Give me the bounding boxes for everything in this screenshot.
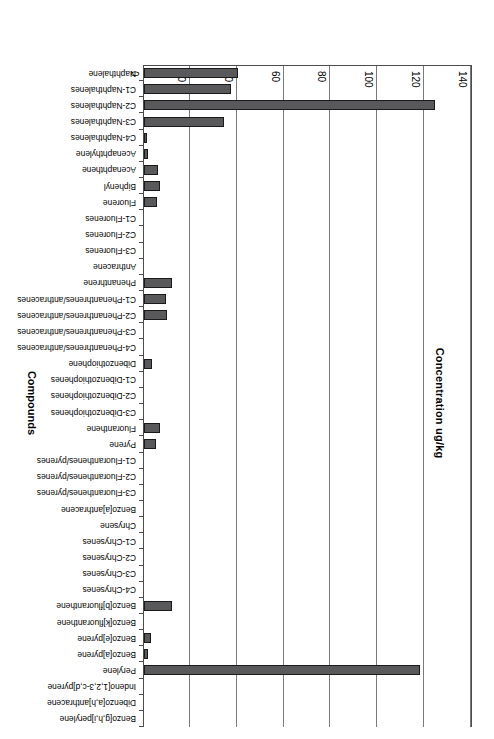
category-label: C1-Naphthalenes — [71, 85, 136, 93]
category-label: C3-Phenanthrenes/anthracenes — [17, 328, 136, 336]
category-tick — [139, 435, 144, 436]
category-tick — [139, 338, 144, 339]
category-label: Benzo[b]fluoranthene — [56, 602, 136, 610]
bar — [144, 68, 238, 78]
category-tick — [139, 129, 144, 130]
category-tick — [139, 161, 144, 162]
category-tick — [139, 726, 144, 727]
category-tick — [139, 516, 144, 517]
category-tick — [139, 694, 144, 695]
category-label: Biphenyl — [104, 182, 136, 190]
category-tick — [139, 500, 144, 501]
category-label: C1-Fluoranthenes/pyrenes — [37, 457, 136, 465]
category-tick — [139, 80, 144, 81]
category-tick — [139, 96, 144, 97]
category-label: Dibenzothiophene — [68, 360, 136, 368]
category-label: Fluorene — [103, 198, 136, 206]
category-tick — [139, 468, 144, 469]
bar — [144, 310, 167, 320]
value-tick-label: 140 — [457, 71, 468, 88]
category-tick — [139, 209, 144, 210]
bar — [144, 359, 152, 369]
category-tick — [139, 371, 144, 372]
gridline — [189, 66, 190, 727]
category-label: C1-Fluorenes — [85, 214, 136, 222]
category-tick — [139, 242, 144, 243]
category-label: C2-Fluorenes — [85, 231, 136, 239]
category-tick — [139, 419, 144, 420]
category-label: Naphthalene — [89, 69, 137, 77]
bar — [144, 601, 172, 611]
category-tick — [139, 548, 144, 549]
category-tick — [139, 387, 144, 388]
gridline — [236, 66, 237, 727]
category-label: Perylene — [103, 667, 136, 675]
category-label: Benzo[a]anthracene — [61, 505, 136, 513]
category-tick — [139, 565, 144, 566]
category-label: Benzo[g,h,i]perylene — [60, 715, 136, 723]
category-label: Indeno[1,2,3-c,d]pyrene — [48, 683, 136, 691]
category-tick — [139, 403, 144, 404]
category-label: C1-Dibenzothiophenes — [51, 376, 136, 384]
value-tick-label: 80 — [316, 71, 327, 82]
bar — [144, 100, 435, 110]
bar — [144, 84, 231, 94]
category-tick — [139, 290, 144, 291]
bar — [144, 165, 158, 175]
category-label: C3-Naphthalenes — [71, 118, 136, 126]
category-tick — [139, 355, 144, 356]
bar — [144, 149, 148, 159]
category-tick — [139, 484, 144, 485]
category-tick — [139, 193, 144, 194]
category-label: C2-Chrysenes — [82, 554, 136, 562]
gridline — [283, 66, 284, 727]
category-label: Phenanthrene — [83, 279, 136, 287]
category-label: C3-Fluorenes — [85, 247, 136, 255]
category-label: C4-Chrysenes — [82, 586, 136, 594]
category-tick — [139, 274, 144, 275]
gridline — [376, 66, 377, 727]
category-axis-title: Compounds — [26, 343, 38, 463]
bar — [144, 278, 172, 288]
category-tick — [139, 177, 144, 178]
value-tick-label: 100 — [363, 71, 374, 88]
category-label: Acenaphthene — [82, 166, 136, 174]
bar — [144, 181, 160, 191]
category-tick — [139, 661, 144, 662]
category-tick — [139, 306, 144, 307]
category-label: Dibenzo[a,h]anthracene — [47, 699, 136, 707]
bar — [144, 666, 420, 676]
category-label: C3-Fluoranthenes/pyrenes — [37, 489, 136, 497]
category-tick — [139, 145, 144, 146]
category-tick — [139, 452, 144, 453]
bar — [144, 423, 160, 433]
category-label: C3-Chrysenes — [82, 570, 136, 578]
gridline — [423, 66, 424, 727]
bar — [144, 133, 147, 143]
category-label: Benzo[a]pyrene — [77, 650, 136, 658]
category-tick — [139, 112, 144, 113]
category-label: C2-Phenanthrenes/anthracenes — [17, 311, 136, 319]
bar — [144, 633, 151, 643]
category-tick — [139, 258, 144, 259]
category-label: C1-Phenanthrenes/anthracenes — [17, 295, 136, 303]
category-label: Fluoranthene — [87, 424, 136, 432]
category-tick — [139, 710, 144, 711]
bar — [144, 294, 166, 304]
category-label: C3-Dibenzothiophenes — [51, 408, 136, 416]
category-tick — [139, 225, 144, 226]
category-label: C2-Naphthalenes — [71, 101, 136, 109]
gridline — [470, 66, 471, 727]
value-tick-label: 120 — [410, 71, 421, 88]
bar — [144, 649, 148, 659]
category-tick — [139, 581, 144, 582]
value-tick-label: 60 — [270, 71, 281, 82]
category-label: Anthracene — [93, 263, 136, 271]
category-label: C2-Fluoranthenes/pyrenes — [37, 473, 136, 481]
category-label: C1-Chrysenes — [82, 537, 136, 545]
category-tick — [139, 322, 144, 323]
category-label: C4-Phenanthrenes/anthracenes — [17, 344, 136, 352]
category-label: C4-Naphthalenes — [71, 134, 136, 142]
category-label: Acenaphthylene — [76, 150, 136, 158]
category-tick — [139, 645, 144, 646]
